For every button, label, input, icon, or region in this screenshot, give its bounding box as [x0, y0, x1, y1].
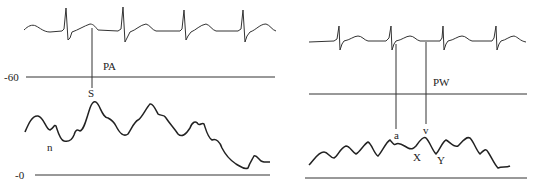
axis-label-0: -0 — [15, 169, 25, 181]
marker-n: n — [47, 141, 53, 153]
left-ecg-trace — [24, 7, 276, 42]
marker-v: v — [423, 124, 429, 136]
pa-pressure-trace — [25, 102, 270, 169]
right-panel: PW a v X Y — [305, 26, 527, 178]
pw-pressure-trace — [309, 137, 510, 168]
marker-s: S — [88, 87, 94, 99]
axis-label-60: -60 — [4, 71, 19, 83]
marker-x: X — [413, 151, 421, 163]
left-panel: -60 PA S n -0 — [4, 7, 276, 181]
hemodynamic-diagram: -60 PA S n -0 PW a v X Y — [0, 0, 537, 190]
marker-a: a — [394, 129, 399, 141]
pa-label: PA — [103, 60, 116, 72]
pw-label: PW — [433, 76, 450, 88]
right-ecg-trace — [309, 26, 526, 50]
marker-y: Y — [437, 154, 445, 166]
